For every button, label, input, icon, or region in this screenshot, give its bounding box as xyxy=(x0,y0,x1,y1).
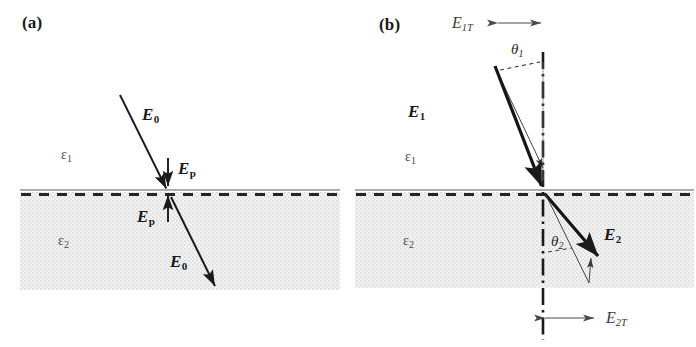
panel-b-angle1-subscript: 1 xyxy=(518,48,523,59)
panel-a-ep-above-symbol: E xyxy=(178,159,189,178)
panel-b-field1-symbol: E xyxy=(408,102,419,121)
panel-b-medium2-subscript: 2 xyxy=(409,239,414,250)
panel-b-field1-label: E1 xyxy=(408,103,425,122)
figure-canvas xyxy=(0,0,696,347)
panel-b-graphics xyxy=(355,23,694,340)
panel-b-tangential1-symbol: E xyxy=(452,14,462,31)
panel-a-ep-above-label: Ep xyxy=(178,160,196,179)
panel-b-tangential1-label: E1T xyxy=(452,15,473,34)
panel-b-e1-vector xyxy=(495,66,542,186)
panel-b-tangential1-subscript: 1T xyxy=(462,22,473,33)
panel-a-medium2-subscript: 2 xyxy=(64,239,69,250)
panel-b-tag: (b) xyxy=(379,16,400,33)
panel-b-field2-label: E2 xyxy=(604,226,621,245)
panel-b-medium2-label: ε2 xyxy=(403,234,414,250)
panel-a-medium1-subscript: 1 xyxy=(67,153,72,164)
panel-b-angle1-label: θ1 xyxy=(511,42,523,59)
panel-a-medium1-label: ε1 xyxy=(61,148,72,164)
panel-a-tag: (a) xyxy=(22,14,42,31)
panel-b-field2-symbol: E xyxy=(604,225,615,244)
panel-a-incident-field-subscript: 0 xyxy=(154,113,160,125)
physics-figure: (a) E0 Ep Ep E0 ε1 ε2 (b) E1T θ1 E1 ε1 ε… xyxy=(0,0,696,347)
panel-b-tangential2-symbol: E xyxy=(606,309,616,326)
panel-b-angle2-subscript: 2 xyxy=(558,240,563,251)
panel-b-field1-subscript: 1 xyxy=(420,110,426,122)
panel-a-ep-above-subscript: p xyxy=(190,167,196,179)
panel-a-ep-below-subscript: p xyxy=(149,215,155,227)
panel-a-ep-below-symbol: E xyxy=(137,207,148,226)
panel-b-medium1-subscript: 1 xyxy=(411,155,416,166)
panel-b-field2-subscript: 2 xyxy=(616,233,622,245)
panel-b-tangential2-label: E2T xyxy=(606,310,627,329)
panel-b-tangential2-subscript: 2T xyxy=(616,317,627,328)
panel-a-transmitted-field-label: E0 xyxy=(170,253,187,272)
panel-b-theta1-reference-line xyxy=(500,62,540,70)
panel-a-medium2-label: ε2 xyxy=(58,234,69,250)
panel-a-incident-field-label: E0 xyxy=(142,106,159,125)
panel-a-ep-below-label: Ep xyxy=(137,208,155,227)
panel-a-transmitted-field-subscript: 0 xyxy=(182,260,188,272)
panel-b-angle2-label: θ2 xyxy=(551,234,563,251)
panel-a-transmitted-field-symbol: E xyxy=(170,252,181,271)
panel-b-medium1-label: ε1 xyxy=(405,150,416,166)
panel-a-incident-field-symbol: E xyxy=(142,105,153,124)
